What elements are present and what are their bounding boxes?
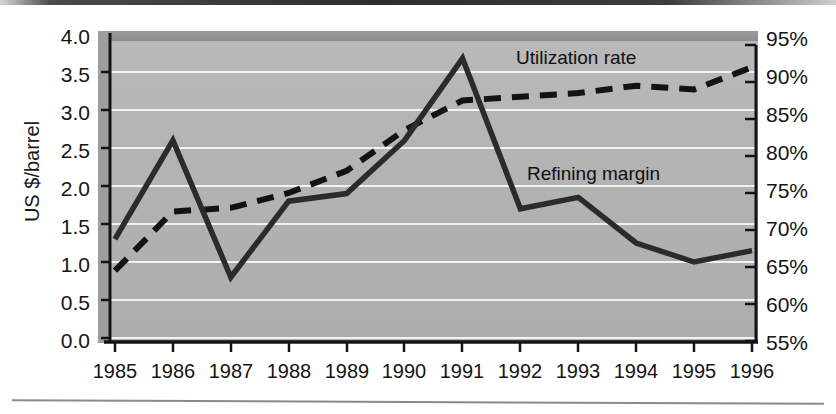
plot-background	[104, 37, 758, 343]
bottom-axis	[104, 342, 758, 352]
plot-top-bevel	[98, 31, 758, 41]
annotation-utilization-rate: Utilization rate	[516, 47, 636, 69]
plot-area	[0, 0, 836, 414]
chart-figure: US $/barrel 4.0 3.5 3.0 2.5 2.0 1.5 1.0 …	[0, 0, 836, 414]
annotation-refining-margin: Refining margin	[527, 163, 660, 185]
